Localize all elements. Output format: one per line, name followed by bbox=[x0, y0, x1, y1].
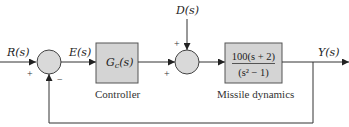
plant-numerator: 100(s + 2) bbox=[232, 51, 276, 63]
plant-denominator: (s² − 1) bbox=[238, 67, 269, 79]
sum2-top-plus-sign: + bbox=[174, 38, 180, 49]
output-label: Y(s) bbox=[318, 46, 340, 59]
sum2-left-plus-sign: + bbox=[164, 68, 170, 79]
error-label: E(s) bbox=[68, 46, 91, 59]
sum1-plus-sign: + bbox=[27, 68, 33, 79]
disturbance-label: D(s) bbox=[175, 4, 199, 17]
summing-junction-1 bbox=[37, 50, 61, 74]
block-diagram: R(s) + − E(s) Gc(s) Controller + D(s) + … bbox=[0, 0, 349, 127]
sum1-minus-sign: − bbox=[57, 74, 63, 85]
input-label: R(s) bbox=[6, 46, 30, 59]
controller-caption: Controller bbox=[95, 88, 141, 100]
controller-transfer-function: Gc(s) bbox=[106, 56, 134, 70]
plant-caption: Missile dynamics bbox=[217, 88, 294, 100]
summing-junction-2 bbox=[175, 50, 199, 74]
